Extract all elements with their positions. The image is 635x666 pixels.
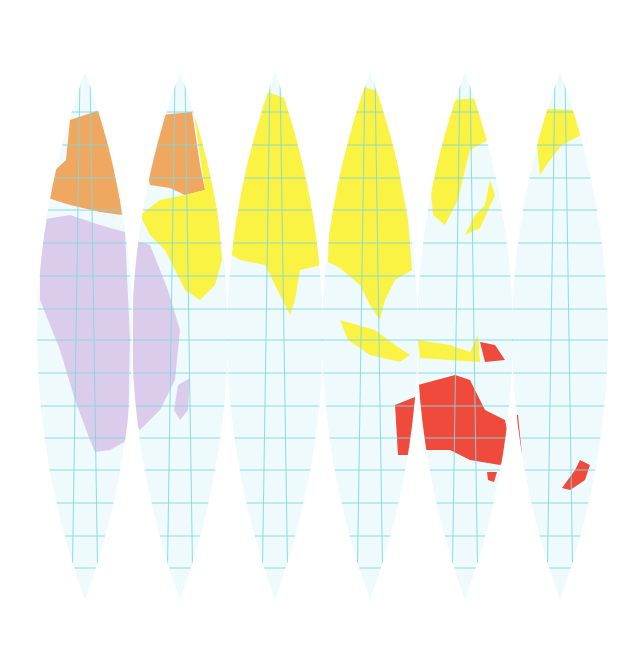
globe-gores-map [0, 0, 635, 666]
graticule-parallels [37, 112, 608, 568]
gore-6 [505, 70, 615, 605]
oceania-region [395, 395, 420, 455]
gore-4 [315, 70, 425, 605]
gore-1 [30, 70, 140, 605]
gore-2 [125, 70, 235, 605]
gore-5 [410, 70, 520, 605]
gore-3 [220, 70, 330, 605]
